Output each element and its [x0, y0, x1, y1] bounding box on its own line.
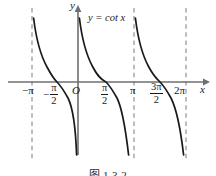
origin-label: O [72, 85, 80, 96]
tick-denominator: 2 [150, 95, 163, 106]
tick-numerator: π [101, 83, 108, 94]
curve-equation-label: y = cot x [88, 13, 125, 24]
tick-label-neg-pi: −π [22, 85, 34, 96]
tick-numerator: π [50, 83, 57, 94]
x-axis-label: x [200, 84, 205, 95]
tick-label-3pi-half: 3π 2 [150, 82, 163, 105]
figure-caption: 图 1-3-2 [0, 166, 216, 176]
y-axis-arrowhead [75, 5, 82, 12]
tick-numerator: 3π [150, 82, 163, 93]
tick-neg-sign: − [43, 89, 49, 100]
tick-denominator: 2 [101, 96, 108, 107]
tick-label-neg-pi-half: − π 2 [43, 83, 58, 106]
y-axis-label: y [70, 0, 75, 11]
cotangent-graph-figure: y x O y = cot x −π − π 2 π 2 π 3π 2 2π [0, 0, 216, 176]
tick-label-pi: π [130, 85, 136, 96]
tick-label-pi-half: π 2 [101, 83, 108, 106]
tick-label-2pi: 2π [174, 85, 185, 96]
tick-denominator: 2 [50, 96, 57, 107]
